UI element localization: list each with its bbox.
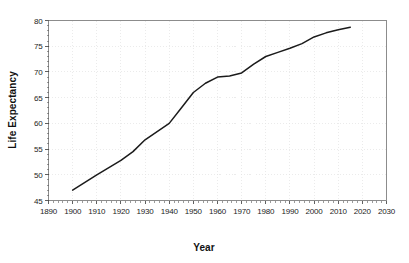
chart-canvas: 1890190019101920193019401950196019701980… [0,0,409,263]
life-expectancy-line-chart: 1890190019101920193019401950196019701980… [0,0,409,263]
x-axis-tick-labels: 1890190019101920193019401950196019701980… [40,207,396,216]
x-tick-label: 2020 [354,207,372,216]
y-tick-label: 50 [34,171,43,180]
x-tick-label: 1990 [281,207,299,216]
x-tick-label: 1900 [64,207,82,216]
x-tick-label: 1970 [233,207,251,216]
x-tick-label: 1930 [137,207,155,216]
x-tick-label: 1940 [161,207,179,216]
y-tick-label: 65 [34,94,43,103]
chart-background [0,0,409,263]
x-tick-label: 1890 [40,207,58,216]
x-tick-label: 1960 [209,207,227,216]
y-tick-label: 75 [34,42,43,51]
y-tick-label: 70 [34,68,43,77]
y-tick-label: 60 [34,119,43,128]
x-tick-label: 1920 [112,207,130,216]
x-tick-label: 2000 [306,207,324,216]
x-tick-label: 2010 [330,207,348,216]
y-tick-label: 45 [34,197,43,206]
x-tick-label: 1980 [257,207,275,216]
x-axis-title: Year [193,242,215,253]
y-tick-label: 80 [34,17,43,26]
x-tick-label: 1950 [185,207,203,216]
x-tick-label: 2030 [378,207,396,216]
x-tick-label: 1910 [88,207,106,216]
y-axis-title: Life Expectancy [7,71,18,149]
y-tick-label: 55 [34,145,43,154]
